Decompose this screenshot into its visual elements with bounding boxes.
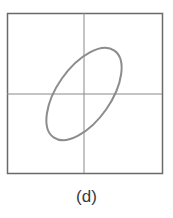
diagram-canvas <box>0 0 173 218</box>
figure-caption: (d) <box>0 187 173 207</box>
